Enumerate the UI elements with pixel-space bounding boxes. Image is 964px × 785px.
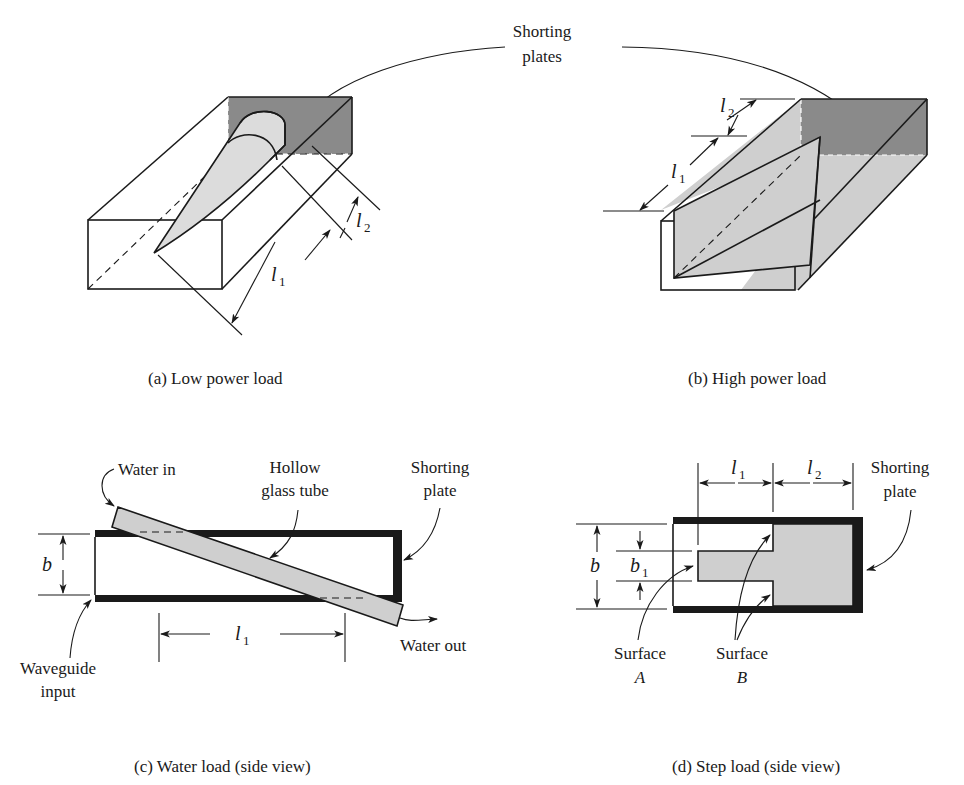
step-absorber [698,524,853,606]
dim-l1-subscript: 1 [739,467,746,482]
panel-a-low-power-load: l 1 l 2 [88,97,380,335]
label-plate-1: Shorting [871,458,930,477]
dim-l1-subscript: 1 [243,633,250,648]
waveguide-top-wall [673,517,863,524]
shorting-plate [393,530,402,602]
label-input-1: Waveguide [20,659,96,678]
label-surface-b-1: Surface [716,644,768,663]
panel-d-step-load: l 1 l 2 b b 1 Surface A Surface B Shorti… [576,456,930,687]
label-plate-2: plate [883,482,916,501]
dim-l1-subscript: 1 [279,274,286,289]
panel-b-high-power-load: l 1 l 2 [603,94,927,290]
label-tube-1: Hollow [270,458,322,477]
caption-d: (d) Step load (side view) [672,757,840,776]
label-plate-1: Shorting [411,458,470,477]
label-water-out: Water out [400,636,466,655]
dim-l2-symbol: l [720,94,726,116]
cone-absorber [154,111,285,253]
dim-l1-symbol: l [671,160,677,182]
caption-c: (c) Water load (side view) [134,757,311,776]
waveguide-front-face [88,220,222,289]
dim-l2-subscript: 2 [815,467,822,482]
dim-l2-symbol: l [356,209,362,231]
dim-l1-symbol: l [271,263,277,285]
label-surface-b-2: B [737,668,748,687]
dim-b-symbol: b [590,554,600,576]
dim-l2-subscript: 2 [728,105,735,120]
callout-line-1: Shorting [513,22,572,41]
dim-l1-symbol: l [731,456,737,478]
waveguide-loads-figure: Shorting plates l 1 l 2 [0,0,964,785]
callout-line-2: plates [522,47,562,66]
dim-b1-subscript: 1 [642,565,649,580]
caption-a: (a) Low power load [148,369,283,388]
caption-b: (b) High power load [688,369,827,388]
waveguide-bottom-wall [673,606,863,613]
label-surface-a-1: Surface [614,644,666,663]
panel-c-water-load: b l 1 Water in Hollow glass tube Shortin… [20,458,470,701]
dim-l1-symbol: l [235,622,241,644]
shorting-plate [853,517,863,613]
shorting-plates-callout: Shorting plates [300,22,856,125]
label-surface-a-2: A [634,668,646,687]
dim-b-symbol: b [42,553,52,575]
dim-l1-subscript: 1 [679,171,686,186]
label-water-in: Water in [118,460,176,479]
dim-b1-symbol: b [630,554,640,576]
label-plate-2: plate [423,481,456,500]
label-input-2: input [41,682,76,701]
dim-l2-subscript: 2 [364,220,371,235]
dim-l2-symbol: l [807,456,813,478]
hollow-glass-tube [112,507,403,626]
label-tube-2: glass tube [261,481,329,500]
